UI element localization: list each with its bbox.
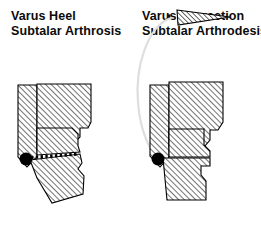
varus-heel-illustration (0, 0, 130, 236)
pivot-point (152, 153, 165, 166)
subtalar-joint-shelf-left (37, 128, 80, 155)
heel-fragment-corrected (163, 158, 210, 200)
anatomical-figure: Varus Heel Subtalar Arthrosis (0, 0, 261, 236)
pivot-point (20, 153, 33, 166)
arc-origin-dot (167, 14, 170, 17)
panel-varus-heel: Varus Heel Subtalar Arthrosis (0, 0, 130, 236)
subtalar-arthrodesis-shelf (169, 129, 210, 157)
varus-correction-illustration (131, 0, 261, 236)
heel-fragment-varus-left (30, 154, 84, 203)
resected-wedge (177, 10, 230, 25)
panel-varus-correction: Varus Correction Subtalar Arthrodesis (131, 0, 261, 236)
